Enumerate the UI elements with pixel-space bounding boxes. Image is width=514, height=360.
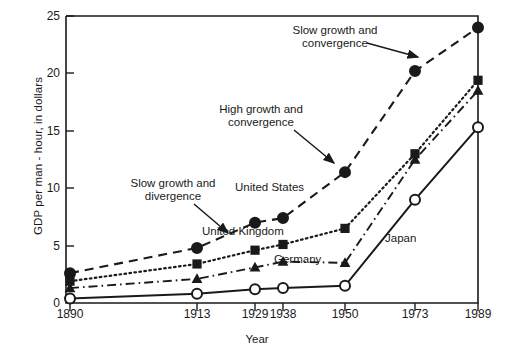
plot-area [0,0,514,360]
data-point [473,76,482,85]
series-label-japan: Japan [385,232,416,244]
y-tick-marks [66,16,74,246]
annotation-slow-growth-divergence: Slow growth and divergence [108,177,238,203]
annotation-slow-growth-convergence: Slow growth and convergence [270,24,400,50]
chart-figure: GDP per man - hour, in dollars Year 25 2… [0,0,514,360]
annotation-line1: Slow growth and [270,24,400,37]
data-point [473,85,484,95]
data-point [340,224,349,233]
data-point [278,213,288,223]
data-point [278,240,287,249]
data-point [192,243,202,253]
data-point [473,122,483,132]
annotation-line1: Slow growth and [108,177,238,190]
annotation-line2: convergence [196,116,326,129]
data-point [410,66,420,76]
annotation-line2: divergence [108,190,238,203]
data-point [250,284,260,294]
data-point [278,283,288,293]
data-point [192,259,201,268]
x-tick-marks [70,303,478,311]
annotation-line2: convergence [270,37,400,50]
figure-caption-clipped [0,349,514,360]
data-point [473,22,483,32]
series-label-united-states: United States [235,181,304,193]
series-label-united-kingdom: United Kingdom [202,225,284,237]
annotation-arrows [194,43,418,233]
data-point [250,246,259,255]
series-label-germany: Germany [274,253,321,265]
data-point [410,195,420,205]
data-point [340,167,350,177]
annotation-line1: High growth and [196,103,326,116]
data-point [65,293,75,303]
data-point [192,289,202,299]
data-point [340,281,350,291]
annotation-high-growth-convergence: High growth and convergence [196,103,326,129]
